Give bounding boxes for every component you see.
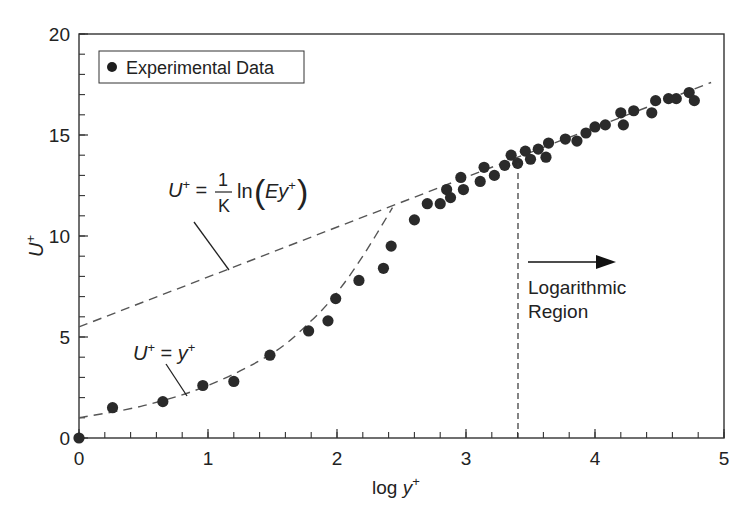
data-point (560, 133, 571, 144)
data-point (455, 172, 466, 183)
arrow-right-icon (596, 255, 616, 269)
data-point (571, 135, 582, 146)
data-point (540, 152, 551, 163)
y-tick-label: 15 (49, 125, 70, 146)
data-point (445, 192, 456, 203)
chart: 012345 05101520 Experimental Data U+ log… (0, 0, 754, 515)
data-point (157, 396, 168, 407)
data-point (499, 160, 510, 171)
data-point (533, 144, 544, 155)
log-region-annotation: Logarithmic Region (518, 163, 626, 438)
y-tick-label: 5 (59, 327, 70, 348)
data-point (615, 107, 626, 118)
data-point (628, 105, 639, 116)
x-tick-label: 3 (461, 448, 472, 469)
data-point (435, 198, 446, 209)
svg-text:Ey+: Ey+ (265, 178, 296, 202)
linear-law-leader (166, 364, 187, 396)
x-tick-label: 0 (74, 448, 85, 469)
y-tick-label: 0 (59, 428, 70, 449)
plot-border (79, 34, 724, 438)
legend-marker (107, 62, 117, 72)
data-point (322, 315, 333, 326)
data-point (600, 119, 611, 130)
x-tick-label: 4 (590, 448, 601, 469)
data-point (303, 325, 314, 336)
data-point (475, 176, 486, 187)
y-tick-label: 10 (49, 226, 70, 247)
data-point (264, 350, 275, 361)
y-tick-label: 20 (49, 24, 70, 45)
svg-text:ln: ln (237, 180, 253, 202)
svg-text:Region: Region (528, 301, 588, 322)
legend: Experimental Data (99, 51, 304, 83)
x-axis-ticks: 012345 (74, 429, 730, 469)
y-axis-label: U+ (23, 235, 47, 257)
data-point (543, 137, 554, 148)
svg-text:U+ = y+: U+ = y+ (133, 340, 195, 364)
data-point (458, 184, 469, 195)
data-point (589, 121, 600, 132)
data-point (378, 263, 389, 274)
x-tick-label: 2 (332, 448, 343, 469)
y-axis-ticks: 05101520 (49, 24, 88, 449)
data-point (671, 93, 682, 104)
data-point (228, 376, 239, 387)
svg-text:Logarithmic: Logarithmic (528, 277, 626, 298)
data-point (489, 170, 500, 181)
x-tick-label: 5 (719, 448, 730, 469)
minor-ticks (79, 34, 724, 438)
data-point (197, 380, 208, 391)
data-point (422, 198, 433, 209)
plot-frame (79, 34, 724, 438)
data-point (353, 275, 364, 286)
log-law-annotation: U+ = 1 K ln ( Ey+ ) (168, 170, 308, 270)
svg-text:K: K (218, 196, 230, 216)
data-point (689, 95, 700, 106)
data-point (646, 107, 657, 118)
data-point (478, 162, 489, 173)
legend-label: Experimental Data (126, 58, 275, 78)
data-point (386, 241, 397, 252)
data-point (107, 402, 118, 413)
svg-text:1: 1 (218, 170, 228, 190)
data-point (525, 154, 536, 165)
svg-text:): ) (297, 172, 308, 210)
svg-text:U+ =: U+ = (168, 177, 207, 201)
data-point (650, 95, 661, 106)
data-point (409, 214, 420, 225)
svg-text:U+: U+ (23, 235, 47, 257)
x-axis-label: log y+ (372, 474, 420, 498)
data-point (73, 432, 84, 443)
data-point (618, 119, 629, 130)
x-tick-label: 1 (203, 448, 214, 469)
linear-law-annotation: U+ = y+ (133, 340, 195, 396)
log-law-leader (194, 222, 229, 270)
data-point (330, 293, 341, 304)
